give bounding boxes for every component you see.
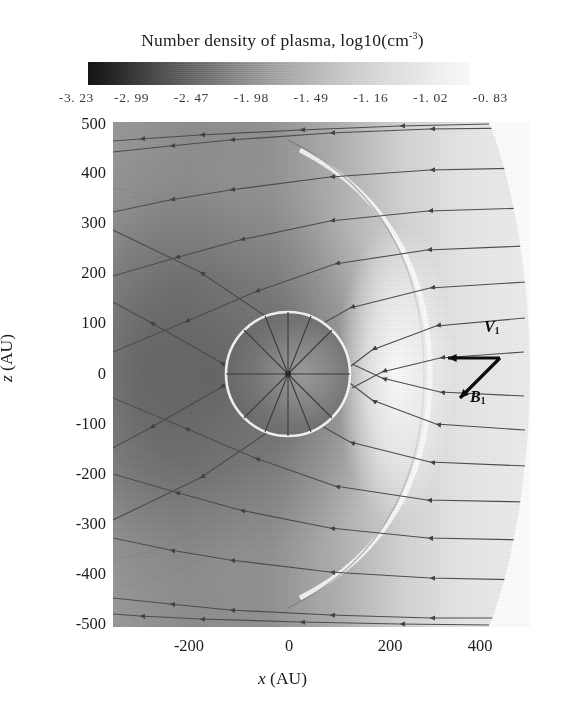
x-tick-3: 400 xyxy=(468,636,493,656)
x-tick-2: 200 xyxy=(378,636,403,656)
y-axis-title-symbol: z xyxy=(0,375,16,382)
figure-root: Number density of plasma, log10(cm-3) -3… xyxy=(0,0,565,716)
x-axis-title: x (AU) xyxy=(0,668,565,689)
x-axis-tick-labels: -2000200400 xyxy=(0,0,565,716)
x-tick-0: -200 xyxy=(174,636,204,656)
y-axis-title: z (AU) xyxy=(0,334,17,382)
y-axis-title-units: (AU) xyxy=(0,334,16,375)
x-tick-1: 0 xyxy=(285,636,293,656)
x-axis-title-symbol: x xyxy=(258,668,266,688)
x-axis-title-units: (AU) xyxy=(266,668,307,688)
